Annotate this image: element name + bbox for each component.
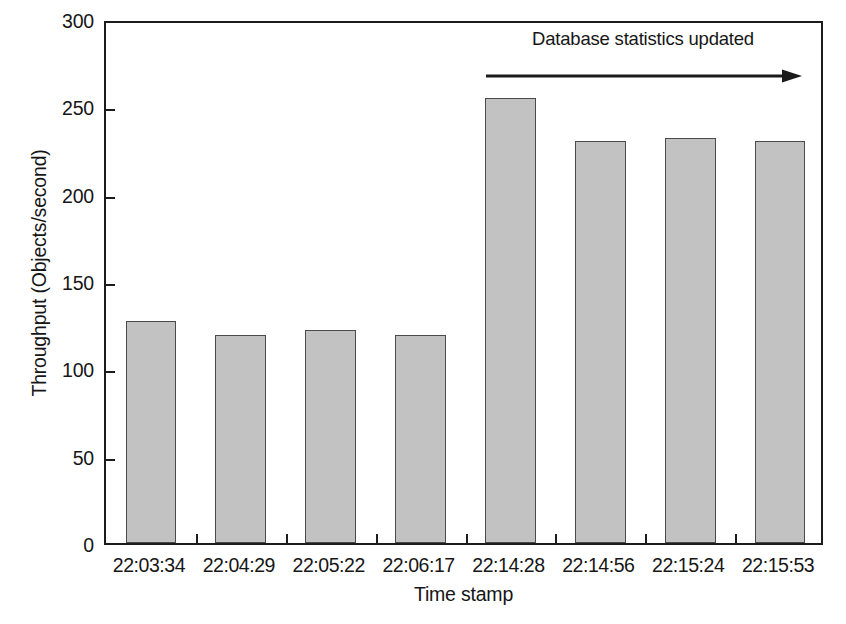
bar xyxy=(485,98,536,543)
annotation-group: Database statistics updated xyxy=(478,27,808,87)
x-axis-tick-labels: 22:03:3422:04:2922:05:2222:06:1722:14:28… xyxy=(104,553,823,581)
right-arrow-icon xyxy=(486,69,802,83)
bar xyxy=(755,141,806,543)
y-axis-tick-labels: 050100150200250300 xyxy=(38,0,94,624)
bar xyxy=(665,138,716,543)
y-tick-mark xyxy=(106,284,115,286)
y-tick-label: 250 xyxy=(42,98,94,118)
x-tick-mark xyxy=(555,534,557,543)
x-tick-mark xyxy=(196,534,198,543)
y-tick-mark xyxy=(106,371,115,373)
bar xyxy=(395,335,446,543)
x-tick-mark xyxy=(466,534,468,543)
bar-chart-figure: Throughput (Objects/second) 050100150200… xyxy=(0,0,846,624)
bar xyxy=(305,330,356,543)
bar xyxy=(575,141,626,543)
y-tick-label: 150 xyxy=(42,273,94,293)
y-tick-mark xyxy=(106,459,115,461)
x-tick-label: 22:15:24 xyxy=(643,553,733,577)
annotation-label: Database statistics updated xyxy=(478,27,808,51)
x-tick-label: 22:14:28 xyxy=(464,553,554,577)
y-tick-mark xyxy=(106,109,115,111)
x-tick-mark xyxy=(645,534,647,543)
y-tick-label: 300 xyxy=(42,11,94,31)
x-tick-label: 22:05:22 xyxy=(284,553,374,577)
y-tick-label: 50 xyxy=(42,448,94,468)
x-tick-mark xyxy=(286,534,288,543)
x-tick-mark xyxy=(376,534,378,543)
x-axis-title: Time stamp xyxy=(104,582,823,606)
x-tick-label: 22:03:34 xyxy=(104,553,194,577)
x-tick-label: 22:04:29 xyxy=(194,553,284,577)
y-tick-label: 100 xyxy=(42,360,94,380)
x-tick-label: 22:15:53 xyxy=(733,553,823,577)
bar xyxy=(215,335,266,543)
plot-area xyxy=(104,21,823,545)
y-tick-label: 200 xyxy=(42,186,94,206)
x-tick-label: 22:14:56 xyxy=(553,553,643,577)
bar xyxy=(126,321,177,543)
x-tick-label: 22:06:17 xyxy=(374,553,464,577)
y-tick-mark xyxy=(106,197,115,199)
x-tick-mark xyxy=(735,534,737,543)
y-tick-label: 0 xyxy=(42,535,94,555)
